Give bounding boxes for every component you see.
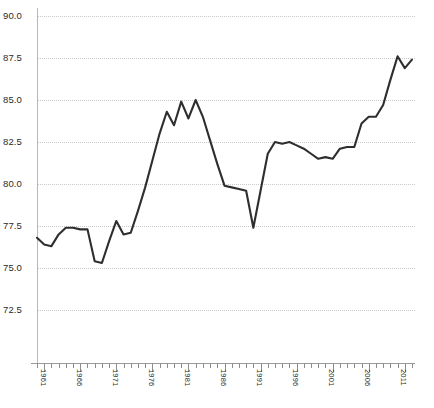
series-layer — [0, 0, 434, 408]
chart-container: 90.087.585.082.580.077.575.072.5 1961196… — [0, 0, 434, 408]
data-line-series — [37, 56, 412, 263]
